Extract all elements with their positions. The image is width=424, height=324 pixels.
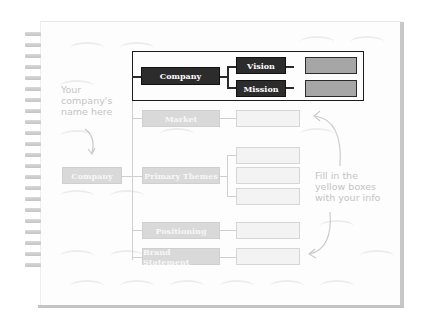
connector bbox=[227, 87, 236, 89]
connector bbox=[132, 176, 142, 177]
theme-1-input-field[interactable] bbox=[236, 147, 300, 164]
mission-node[interactable]: Mission bbox=[236, 80, 286, 97]
vision-node[interactable]: Vision bbox=[236, 57, 286, 74]
company-node-highlighted[interactable]: Company bbox=[141, 67, 220, 85]
mission-input-field[interactable] bbox=[305, 80, 357, 97]
connector bbox=[132, 230, 142, 231]
left-annotation: Your company's name here bbox=[61, 84, 112, 117]
curved-arrow-up-icon bbox=[305, 100, 345, 170]
connector bbox=[285, 87, 294, 89]
vision-label: Vision bbox=[247, 61, 275, 71]
root-label: Company bbox=[71, 171, 112, 181]
connector bbox=[219, 118, 236, 119]
connector bbox=[132, 257, 142, 258]
market-input-field[interactable] bbox=[236, 110, 300, 127]
connector bbox=[219, 257, 236, 258]
market-label: Market bbox=[165, 114, 198, 124]
mission-label: Mission bbox=[243, 84, 278, 94]
company-root-node[interactable]: Company bbox=[62, 167, 122, 184]
connector bbox=[227, 155, 236, 156]
right-annotation: Fill in the yellow boxes with your info bbox=[315, 170, 380, 203]
connector bbox=[285, 66, 294, 68]
theme-2-input-field[interactable] bbox=[236, 167, 300, 184]
connector bbox=[227, 196, 236, 197]
curved-arrow-down-icon bbox=[305, 210, 345, 260]
page-shadow-right bbox=[400, 22, 404, 308]
connector bbox=[132, 118, 142, 119]
connector-trunk bbox=[132, 100, 133, 260]
primary-themes-label: Primary Themes bbox=[144, 171, 217, 181]
market-node[interactable]: Market bbox=[142, 110, 220, 127]
connector bbox=[227, 66, 229, 88]
theme-3-input-field[interactable] bbox=[236, 188, 300, 205]
brand-statement-label: Brand Statement bbox=[143, 247, 219, 267]
connector bbox=[219, 230, 236, 231]
company-label: Company bbox=[160, 71, 201, 81]
positioning-label: Positioning bbox=[155, 226, 206, 236]
connector bbox=[227, 66, 236, 68]
positioning-input-field[interactable] bbox=[236, 222, 300, 239]
arrow-down-icon bbox=[82, 127, 102, 157]
brand-statement-input-field[interactable] bbox=[236, 248, 300, 265]
page-shadow-bottom bbox=[38, 305, 404, 308]
spiral-binding bbox=[25, 32, 41, 274]
brand-statement-node[interactable]: Brand Statement bbox=[142, 248, 220, 265]
primary-themes-node[interactable]: Primary Themes bbox=[142, 167, 220, 184]
positioning-node[interactable]: Positioning bbox=[142, 222, 220, 239]
vision-input-field[interactable] bbox=[305, 57, 357, 74]
connector bbox=[227, 155, 228, 197]
connector bbox=[132, 76, 141, 78]
